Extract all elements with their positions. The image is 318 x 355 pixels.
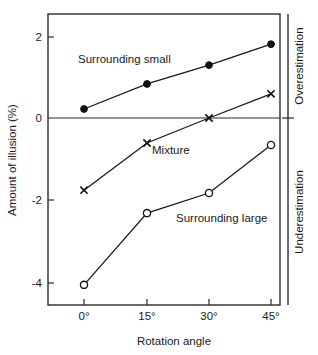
data-point-surrounding-small-45° [268,41,275,48]
data-point-surrounding-large-45° [267,141,274,148]
right-label-underestimation: Underestimation [293,170,305,254]
annotation-mixture: Mixture [152,144,190,156]
data-point-surrounding-small-30° [206,62,213,69]
x-tick-label-45: 45° [262,310,279,322]
y-axis-title: Amount of illusion (%) [6,104,18,216]
x-tick-label-15: 15° [138,310,155,322]
data-point-surrounding-small-15° [144,81,151,88]
x-tick-label-30: 30° [200,310,217,322]
data-point-surrounding-large-0° [80,281,87,288]
right-label-overestimation: Overestimation [293,27,305,104]
y-tick-label-0: 0 [36,112,42,124]
data-point-surrounding-large-15° [143,210,150,217]
x-axis-title: Rotation angle [137,335,211,347]
y-tick-label-2: 2 [36,31,42,43]
annotation-surrounding-small: Surrounding small [78,53,171,65]
y-tick-label-neg4: -4 [32,277,43,289]
chart-canvas: 2 0 -2 -4 0° 15° 30° 45° Rotation angle … [0,0,318,355]
annotation-surrounding-large: Surrounding large [176,212,267,224]
illusion-chart-figure: 2 0 -2 -4 0° 15° 30° 45° Rotation angle … [0,0,318,355]
x-tick-label-0: 0° [79,310,90,322]
data-point-surrounding-small-0° [81,106,88,113]
data-point-surrounding-large-30° [205,189,212,196]
y-tick-label-neg2: -2 [32,194,42,206]
